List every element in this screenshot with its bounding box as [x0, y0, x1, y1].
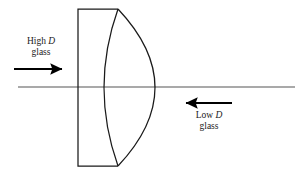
high-d-symbol: D: [48, 36, 55, 46]
low-d-label-line-1: Low D: [176, 110, 242, 121]
lens-diagram-canvas: [0, 0, 308, 177]
low-d-label-line-2: glass: [176, 121, 242, 132]
high-d-label-text: High: [27, 36, 48, 46]
high-d-label-line-1: High D: [8, 36, 74, 47]
low-d-glass-label: Low D glass: [176, 110, 242, 132]
low-d-label-text: Low: [196, 110, 216, 120]
lens-diagram-figure: High D glass Low D glass: [0, 0, 308, 177]
high-d-label-line-2: glass: [8, 47, 74, 58]
high-d-glass-label: High D glass: [8, 36, 74, 58]
low-d-symbol: D: [215, 110, 222, 120]
